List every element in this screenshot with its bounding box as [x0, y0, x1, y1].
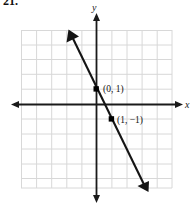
y-axis-top-arrowhead [93, 13, 100, 21]
coordinate-plane: (0, 1) (1, −1) x y [0, 0, 194, 209]
plotted-line [67, 30, 150, 193]
graph-figure: 21. [0, 0, 194, 209]
point-marker-1-neg1 [109, 116, 114, 121]
point-marker-0-1 [94, 86, 99, 91]
x-axis-right-arrowhead [175, 101, 183, 108]
point-label-1-neg1: (1, −1) [117, 115, 143, 126]
y-axis [93, 13, 100, 203]
y-axis-bottom-arrowhead [93, 195, 100, 203]
y-axis-label: y [91, 2, 97, 13]
line-upper-arrowhead [67, 30, 80, 43]
x-axis-left-arrowhead [11, 101, 19, 108]
point-label-0-1: (0, 1) [103, 84, 124, 95]
x-axis-label: x [184, 99, 190, 110]
